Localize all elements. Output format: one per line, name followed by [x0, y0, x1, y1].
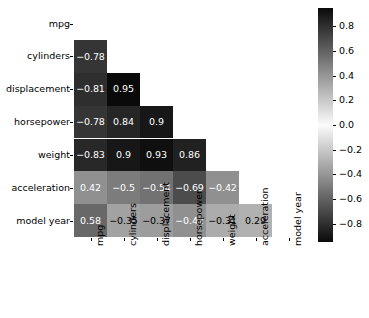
x-axis-tick-mark [190, 238, 191, 241]
colorbar-tick-mark [333, 125, 336, 126]
colorbar-tick-label: −0.4 [339, 169, 362, 179]
x-axis-tick-mark [91, 238, 92, 241]
colorbar-tick-mark [333, 150, 336, 151]
colorbar-tick-mark [333, 100, 336, 101]
x-axis-tick-mark [124, 238, 125, 241]
x-axis-tick-label: model year [293, 192, 303, 246]
colorbar-tick-label: −0.2 [339, 145, 362, 155]
x-axis-tick-label: weight [227, 214, 237, 246]
colorbar-tick-label: 0.6 [339, 46, 354, 56]
colorbar-tick-mark [333, 26, 336, 27]
x-axis-tick-label: cylinders [128, 203, 138, 246]
correlation-heatmap-figure: −0.78−0.810.95−0.780.840.9−0.830.90.930.… [0, 0, 369, 318]
colorbar-tick-mark [333, 174, 336, 175]
colorbar-tick-label: 0.0 [339, 120, 354, 130]
x-axis-tick-mark [289, 238, 290, 241]
colorbar-tick-mark [333, 76, 336, 77]
x-axis-tick-label: horsepower [194, 190, 204, 246]
colorbar-tick-mark [333, 51, 336, 52]
x-axis-tick-mark [256, 238, 257, 241]
x-axis-tick-mark [157, 238, 158, 241]
colorbar-gradient [318, 8, 333, 242]
colorbar [318, 8, 333, 242]
colorbar-tick-label: −0.6 [339, 194, 362, 204]
colorbar-tick-label: −0.8 [339, 219, 362, 229]
colorbar-tick-mark [333, 199, 336, 200]
colorbar-tick-label: 0.8 [339, 21, 354, 31]
colorbar-tick-mark [333, 224, 336, 225]
colorbar-tick-label: 0.2 [339, 95, 354, 105]
x-axis-tick-label: mpg [95, 225, 105, 246]
x-axis-tick-mark [223, 238, 224, 241]
x-axis: mpgcylindersdisplacementhorsepowerweight… [0, 0, 369, 318]
colorbar-tick-label: 0.4 [339, 71, 354, 81]
x-axis-tick-label: acceleration [260, 187, 270, 246]
x-axis-tick-label: displacement [161, 182, 171, 246]
